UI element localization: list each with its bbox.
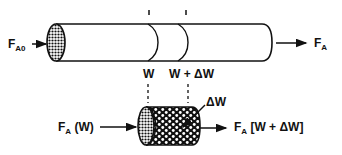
element-inlet-label: FA (W) [58, 121, 94, 136]
differential-element [138, 107, 200, 145]
section-w [148, 24, 158, 61]
outlet-flow-label: FA [314, 37, 327, 52]
position-label-w: W [143, 68, 154, 80]
catalyst-end-cap [47, 24, 65, 61]
packed-bed-tube [47, 10, 272, 61]
element-delta-w-label: ΔW [206, 96, 226, 108]
inlet-flow-label: FA0 [8, 38, 26, 53]
section-w-plus-dw [178, 24, 188, 61]
element-outlet-label: FA [W + ΔW] [234, 121, 303, 136]
position-label-w-plus-dw: W + ΔW [169, 68, 214, 80]
